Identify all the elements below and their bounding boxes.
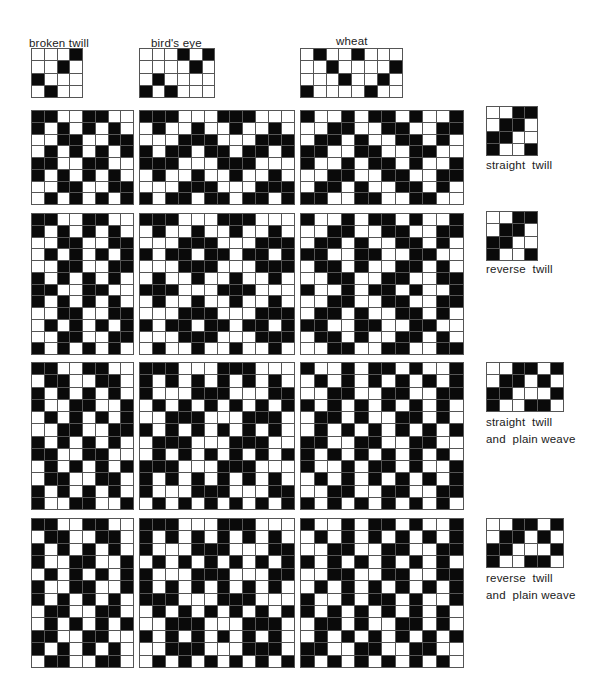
weave-cell: [355, 226, 368, 237]
weave-cell: [165, 49, 177, 60]
weave-cell: [243, 285, 255, 296]
weave-cell: [218, 193, 230, 204]
weave-cell: [218, 273, 230, 284]
weave-cell: [396, 375, 409, 386]
weave-cell: [437, 123, 450, 134]
weave-cell: [192, 226, 204, 237]
weave-cell: [70, 320, 82, 331]
weave-cell: [179, 146, 191, 157]
weave-cell: [96, 498, 108, 509]
weave-cell: [301, 343, 314, 354]
weave-cell: [178, 86, 190, 97]
weave-cell: [96, 249, 108, 260]
weave-cell: [70, 581, 82, 592]
weave-cell: [301, 74, 313, 85]
weave-cell: [32, 343, 44, 354]
weave-cell: [32, 569, 44, 580]
weave-cell: [153, 486, 165, 497]
weave-cell: [315, 519, 328, 530]
weave-cell: [328, 375, 341, 386]
weave-cell: [153, 581, 165, 592]
weave-cell: [45, 214, 57, 225]
weave-cell: [230, 123, 242, 134]
weave-cell: [382, 158, 395, 169]
weave-cell: [551, 363, 563, 374]
weave-cell: [410, 375, 423, 386]
weave-cell: [355, 332, 368, 343]
weave-cell: [410, 320, 423, 331]
weave-cell: [166, 296, 178, 307]
weave-cell: [109, 531, 121, 542]
weave-cell: [256, 486, 268, 497]
weave-cell: [355, 170, 368, 181]
drawdown-reverse-twill--bird-s-eye: [139, 213, 295, 355]
weave-cell: [301, 193, 314, 204]
weave-cell: [269, 182, 281, 193]
weave-cell: [109, 498, 121, 509]
weave-cell: [269, 308, 281, 319]
weave-cell: [192, 424, 204, 435]
weave-cell: [369, 631, 382, 642]
weave-cell: [369, 412, 382, 423]
weave-cell: [396, 135, 409, 146]
weave-cell: [423, 249, 436, 260]
weave-cell: [500, 544, 512, 555]
weave-cell: [256, 606, 268, 617]
weave-cell: [355, 273, 368, 284]
weave-cell: [109, 363, 121, 374]
weave-cell: [192, 308, 204, 319]
weave-cell: [58, 498, 70, 509]
weave-cell: [500, 107, 512, 118]
weave-cell: [342, 332, 355, 343]
weave-cell: [121, 556, 133, 567]
weave-cell: [121, 182, 133, 193]
weave-cell: [70, 437, 82, 448]
weave-cell: [342, 618, 355, 629]
weave-cell: [205, 656, 217, 667]
weave-cell: [45, 498, 57, 509]
weave-cell: [328, 343, 341, 354]
weave-cell: [218, 486, 230, 497]
weave-cell: [256, 170, 268, 181]
weave-cell: [328, 261, 341, 272]
weave-cell: [315, 498, 328, 509]
weave-cell: [243, 193, 255, 204]
weave-cell: [437, 158, 450, 169]
weave-cell: [121, 226, 133, 237]
weave-cell: [342, 363, 355, 374]
weave-cell: [282, 400, 294, 411]
weave-cell: [230, 182, 242, 193]
weave-cell: [153, 643, 165, 654]
label-straight-twill: straight twill: [486, 159, 552, 171]
weave-cell: [410, 581, 423, 592]
weave-cell: [450, 343, 463, 354]
weave-cell: [423, 581, 436, 592]
weave-cell: [218, 285, 230, 296]
weave-cell: [58, 135, 70, 146]
weave-cell: [32, 226, 44, 237]
weave-cell: [45, 74, 57, 85]
weave-cell: [205, 182, 217, 193]
weave-cell: [179, 388, 191, 399]
weave-cell: [328, 400, 341, 411]
weave-cell: [166, 606, 178, 617]
weave-cell: [96, 343, 108, 354]
weave-cell: [45, 170, 57, 181]
weave-cell: [282, 343, 294, 354]
weave-cell: [32, 238, 44, 249]
weave-cell: [396, 170, 409, 181]
weave-cell: [513, 363, 525, 374]
weave-cell: [282, 412, 294, 423]
weave-cell: [396, 111, 409, 122]
weave-cell: [166, 146, 178, 157]
weave-cell: [423, 308, 436, 319]
weave-cell: [153, 320, 165, 331]
weave-cell: [256, 569, 268, 580]
label-reverse-twill: reverse twill: [486, 263, 553, 275]
weave-cell: [179, 544, 191, 555]
weave-cell: [513, 119, 525, 130]
weave-cell: [256, 412, 268, 423]
weave-cell: [192, 285, 204, 296]
weave-cell: [205, 285, 217, 296]
weave-cell: [301, 473, 314, 484]
